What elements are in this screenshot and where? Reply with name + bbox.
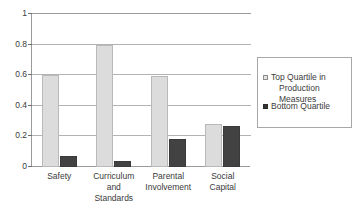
x-axis-category-label: CurriculumandStandards <box>87 171 142 204</box>
y-axis-tick-label: 1 <box>3 9 27 18</box>
legend-entry[interactable]: Bottom Quartile <box>263 101 330 112</box>
y-axis-tick-label: 0.6 <box>3 70 27 79</box>
bar <box>42 75 59 167</box>
legend-swatch-bottom-quartile-icon <box>263 104 268 109</box>
x-axis-category-label-line: Curriculum <box>87 171 142 182</box>
legend-label-line: Bottom Quartile <box>271 101 330 112</box>
y-axis-labels: 00.20.40.60.81 <box>0 14 27 167</box>
x-axis-category-label: ParentalInvolvement <box>141 171 196 193</box>
legend-swatch-top-quartile-icon <box>263 75 268 80</box>
legend-label: Bottom Quartile <box>271 101 330 112</box>
bar-group <box>141 14 196 167</box>
x-axis-category-label-line: Safety <box>32 171 87 182</box>
bar <box>96 45 113 167</box>
x-axis-category-label-line: Standards <box>87 193 142 204</box>
bar-chart: 00.20.40.60.81 SafetyCurriculumandStanda… <box>0 0 361 213</box>
y-axis-tick-label: 0.4 <box>3 101 27 110</box>
bar-groups <box>32 14 250 167</box>
chart-legend: Top Quartile inProduction MeasuresBottom… <box>257 57 352 128</box>
bar <box>223 126 240 167</box>
bar <box>205 124 222 167</box>
x-axis-category-label-line: Involvement <box>141 182 196 193</box>
y-axis-tick-label: 0.8 <box>3 40 27 49</box>
bar-group <box>32 14 87 167</box>
x-axis-category-label: Safety <box>32 171 87 182</box>
y-axis-tick-label: 0.2 <box>3 131 27 140</box>
x-axis-category-label: SocialCapital <box>196 171 251 193</box>
bar <box>169 139 186 167</box>
y-axis-tick-label: 0 <box>3 162 27 171</box>
x-axis-category-label-line: Parental <box>141 171 196 182</box>
bar-group <box>87 14 142 167</box>
legend-label-line: Top Quartile in <box>271 72 351 83</box>
x-axis-category-label-line: Social <box>196 171 251 182</box>
bar-group <box>196 14 251 167</box>
x-axis-category-label-line: Capital <box>196 182 251 193</box>
bar <box>60 156 77 167</box>
x-axis-labels: SafetyCurriculumandStandardsParentalInvo… <box>32 171 250 213</box>
bar <box>151 76 168 167</box>
x-axis-category-label-line: and <box>87 182 142 193</box>
bar <box>114 161 131 167</box>
